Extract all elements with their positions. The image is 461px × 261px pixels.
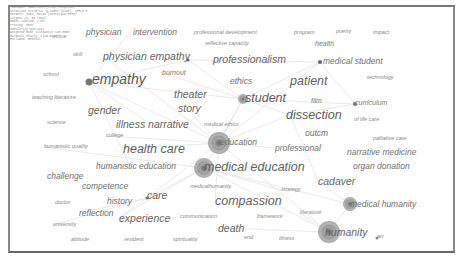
keyword-label[interactable]: compassion (215, 195, 282, 208)
keyword-label[interactable]: end (244, 235, 253, 241)
keyword-label[interactable]: physician empathy (103, 51, 190, 62)
keyword-label[interactable]: health (315, 40, 334, 47)
keyword-label[interactable]: impact (373, 30, 389, 36)
keyword-label[interactable]: doctor (55, 200, 70, 206)
keyword-label[interactable]: student (245, 92, 286, 105)
keyword-label[interactable]: humanistic education (96, 162, 176, 171)
keyword-label[interactable]: narrative medicine (347, 148, 416, 157)
keyword-label[interactable]: of life care (354, 117, 379, 123)
keyword-label[interactable]: medical humanity (350, 200, 416, 209)
keyword-label[interactable]: teaching literature (32, 95, 76, 101)
keyword-label[interactable]: outcm (305, 129, 328, 138)
keyword-label[interactable]: program (294, 30, 314, 36)
keyword-label[interactable]: spirituality (173, 237, 197, 243)
keyword-label[interactable]: college (106, 133, 123, 139)
keyword-label[interactable]: organ donation (353, 162, 410, 171)
keyword-label[interactable]: medical education (204, 161, 305, 174)
keyword-label[interactable]: illness narrative (116, 119, 189, 130)
keyword-label[interactable]: framework (257, 214, 283, 220)
keyword-label[interactable]: professional (275, 144, 321, 153)
keyword-label[interactable]: medical student (323, 57, 383, 66)
keyword-label[interactable]: skill (73, 52, 82, 58)
keyword-label[interactable]: dissection (286, 109, 342, 122)
keyword-label[interactable]: university (53, 222, 76, 228)
keyword-label[interactable]: resident (124, 237, 144, 243)
keyword-label[interactable]: strategy (281, 187, 301, 193)
keyword-label[interactable]: humanity (325, 227, 368, 238)
keyword-label[interactable]: reflection (79, 209, 114, 218)
keyword-label[interactable]: film (311, 97, 322, 104)
keyword-label[interactable]: empathy (92, 72, 146, 86)
keyword-label[interactable]: health care (123, 143, 185, 156)
keyword-label[interactable]: reflective capacity (205, 41, 249, 47)
keyword-label[interactable]: care (147, 190, 167, 201)
keyword-label[interactable]: theater (174, 89, 207, 100)
keyword-label[interactable]: poetry (336, 29, 351, 35)
info-box: Timespan: 1998-2021 (Slice Length=1)Sele… (10, 6, 85, 42)
keyword-label[interactable]: literature (300, 210, 321, 216)
keyword-label[interactable]: communication (180, 214, 217, 220)
keyword-label[interactable]: patient (290, 75, 328, 88)
keyword-label[interactable]: curriculum (355, 99, 387, 106)
info-line: Excluded: medical (10, 38, 85, 42)
keyword-label[interactable]: art (377, 234, 383, 240)
keyword-label[interactable]: death (218, 223, 244, 234)
keyword-label[interactable]: burnout (162, 69, 186, 76)
keyword-label[interactable]: physician (86, 28, 121, 37)
keyword-label[interactable]: story (178, 103, 201, 114)
keyword-label[interactable]: technology (367, 75, 394, 81)
keyword-label[interactable]: competence (82, 182, 128, 191)
keyword-label[interactable]: education (220, 138, 257, 147)
keyword-label[interactable]: experience (119, 213, 170, 224)
node-circle[interactable] (318, 60, 322, 64)
keyword-label[interactable]: science (47, 120, 66, 126)
keyword-label[interactable]: attitude (71, 237, 89, 243)
keyword-label[interactable]: virtue (53, 34, 66, 40)
keyword-label[interactable]: humanistic quality (44, 144, 88, 150)
keyword-label[interactable]: challenge (47, 172, 83, 181)
keyword-label[interactable]: medicalhumanity (190, 184, 231, 190)
keyword-label[interactable]: illness (279, 236, 294, 242)
keyword-label[interactable]: medical ethics (204, 122, 239, 128)
keyword-label[interactable]: gender (88, 105, 121, 116)
keyword-label[interactable]: history (107, 197, 132, 206)
keyword-label[interactable]: ethics (230, 77, 252, 86)
keyword-label[interactable]: professional development (194, 30, 257, 36)
keyword-label[interactable]: school (43, 72, 59, 78)
keyword-label[interactable]: cadaver (318, 176, 355, 187)
keyword-label[interactable]: intervention (133, 28, 177, 37)
keyword-label[interactable]: palliative care (373, 136, 407, 142)
keyword-label[interactable]: professionalism (213, 54, 286, 65)
